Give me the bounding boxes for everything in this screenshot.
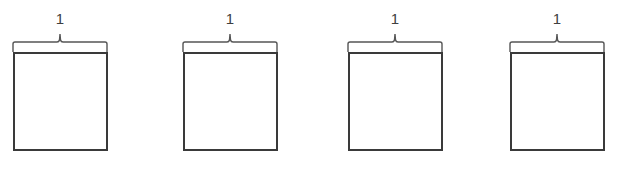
square-shape bbox=[510, 52, 605, 151]
unit-square-2: 1 bbox=[182, 0, 278, 172]
side-length-label: 1 bbox=[347, 10, 443, 28]
side-length-label: 1 bbox=[182, 10, 278, 28]
side-length-label: 1 bbox=[509, 10, 605, 28]
side-length-label: 1 bbox=[12, 10, 108, 28]
unit-square-3: 1 bbox=[347, 0, 443, 172]
unit-square-1: 1 bbox=[12, 0, 108, 172]
square-shape bbox=[348, 52, 443, 151]
curly-brace-icon bbox=[347, 32, 443, 54]
curly-brace-icon bbox=[12, 32, 108, 54]
square-shape bbox=[13, 52, 108, 151]
curly-brace-icon bbox=[509, 32, 605, 54]
square-shape bbox=[183, 52, 278, 151]
unit-square-4: 1 bbox=[509, 0, 605, 172]
curly-brace-icon bbox=[182, 32, 278, 54]
